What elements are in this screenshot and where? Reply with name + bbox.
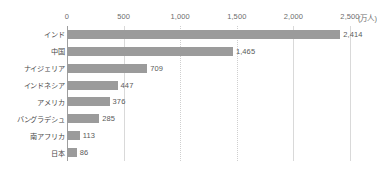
bar-row: 日本 86 [0, 144, 375, 161]
value-label-japan: 86 [80, 148, 89, 157]
bar-row: インド 2,414 [0, 26, 375, 43]
bar-row: 中国 1,465 [0, 43, 375, 60]
category-label-bangladesh: バングラデシュ [3, 114, 65, 124]
bar-wrap-indonesia: 447 [67, 77, 133, 94]
bar-wrap-china: 1,465 [67, 43, 255, 60]
x-axis-unit-label: (万人) [358, 12, 377, 23]
value-label-china: 1,465 [236, 47, 255, 56]
bar-bangladesh [67, 114, 99, 123]
value-label-usa: 376 [113, 97, 126, 106]
bar-row: アメリカ 376 [0, 94, 375, 111]
x-tick-label-1500: 1,500 [227, 12, 246, 21]
bar-wrap-south-africa: 113 [67, 127, 95, 144]
bar-japan [67, 148, 77, 157]
category-label-china: 中国 [3, 46, 65, 56]
value-label-nigeria: 709 [150, 64, 163, 73]
bar-wrap-japan: 86 [67, 144, 88, 161]
category-label-nigeria: ナイジェリア [3, 63, 65, 73]
bar-india [67, 30, 340, 39]
value-label-india: 2,414 [343, 30, 362, 39]
category-label-india: インド [3, 29, 65, 39]
bar-wrap-bangladesh: 285 [67, 110, 115, 127]
bar-indonesia [67, 81, 118, 90]
bar-nigeria [67, 64, 147, 73]
bar-row: ナイジェリア 709 [0, 60, 375, 77]
x-tick-label-1000: 1,000 [171, 12, 190, 21]
category-label-indonesia: インドネシア [3, 80, 65, 90]
x-tick-label-500: 500 [117, 12, 130, 21]
value-label-bangladesh: 285 [102, 114, 115, 123]
bar-south-africa [67, 131, 80, 140]
category-label-japan: 日本 [3, 148, 65, 158]
bar-row: 南アフリカ 113 [0, 127, 375, 144]
bar-usa [67, 97, 110, 106]
x-axis-tick-labels: 0 500 1,000 1,500 2,000 2,500 (万人) [0, 0, 375, 26]
x-tick-label-0: 0 [65, 12, 69, 21]
x-tick-label-2000: 2,000 [284, 12, 303, 21]
value-label-indonesia: 447 [121, 81, 134, 90]
category-label-usa: アメリカ [3, 97, 65, 107]
bar-wrap-usa: 376 [67, 94, 125, 111]
bar-rows: インド 2,414 中国 1,465 ナイジェリア 709 インドネシア [0, 26, 375, 161]
x-tick-label-2500: 2,500 [340, 12, 359, 21]
bar-wrap-nigeria: 709 [67, 60, 163, 77]
bar-wrap-india: 2,414 [67, 26, 363, 43]
bar-china [67, 47, 233, 56]
value-label-south-africa: 113 [83, 131, 95, 140]
bar-row: インドネシア 447 [0, 77, 375, 94]
bar-row: バングラデシュ 285 [0, 110, 375, 127]
category-label-south-africa: 南アフリカ [3, 131, 65, 141]
